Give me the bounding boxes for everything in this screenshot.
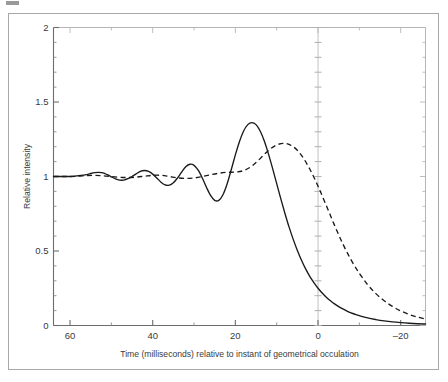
x-axis-title: Time (milliseconds) relative to instant …: [120, 349, 359, 359]
y-tick-label: 1: [43, 171, 48, 182]
x-tick-label: 0: [315, 330, 320, 341]
x-tick-label: –20: [393, 330, 409, 341]
y-tick-label: 0.5: [35, 245, 48, 256]
x-tick-label: 60: [65, 330, 76, 341]
y-tick-label: 0: [43, 320, 48, 331]
series-finite-source-size-smoothed: [54, 143, 426, 319]
x-tick-label: 40: [147, 330, 158, 341]
chart-plot-area: 00.511.526040200–20Time (milliseconds) r…: [0, 0, 448, 382]
figure-container: 00.511.526040200–20Time (milliseconds) r…: [0, 0, 448, 382]
y-tick-label: 1.5: [35, 96, 48, 107]
x-tick-label: 20: [230, 330, 241, 341]
series-monochromatic-fresnel-diffraction: [54, 123, 426, 324]
y-axis-title: Relative intensity: [22, 143, 32, 209]
y-tick-label: 2: [43, 22, 48, 33]
